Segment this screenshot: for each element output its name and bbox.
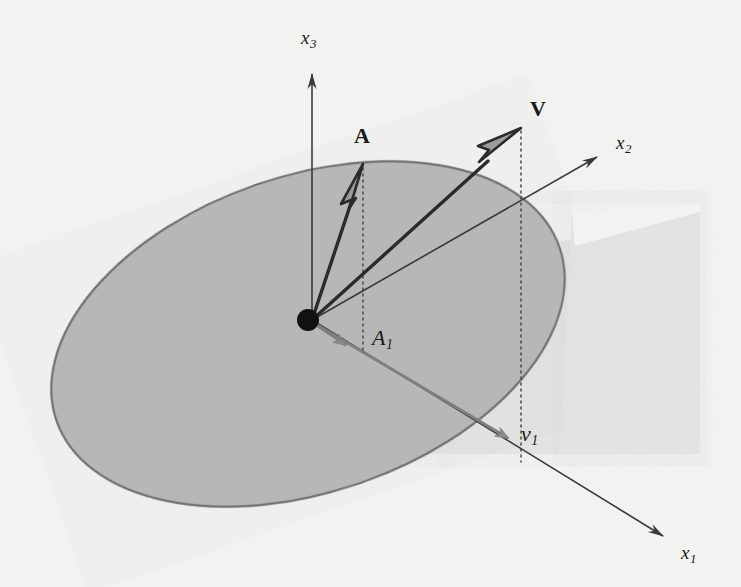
component-label-v1: v1 xyxy=(521,423,538,448)
vertical-plane-front-strip xyxy=(560,204,700,454)
axis-label-x1: x1 xyxy=(681,543,696,565)
component-label-A1: A1 xyxy=(372,327,393,352)
horizontal-plane xyxy=(5,98,611,570)
vector-projection-diagram: x3 x2 x1 A V A1 v1 xyxy=(0,0,741,587)
origin-dot xyxy=(297,309,319,331)
vector-label-A: A xyxy=(354,125,370,147)
diagram-canvas xyxy=(0,0,741,587)
axis-label-x2: x2 xyxy=(616,133,631,155)
vector-label-V: V xyxy=(530,98,546,120)
axis-label-x3: x3 xyxy=(301,28,316,50)
